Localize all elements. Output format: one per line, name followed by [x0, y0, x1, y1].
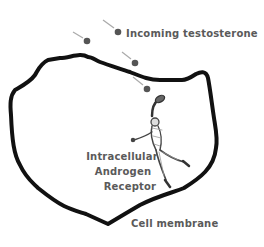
intracellular-androgen-receptor-label: Intracellular Androgen Receptor — [72, 149, 182, 194]
incoming-testosterone-label: Incoming testosterone — [126, 29, 258, 39]
receptor-label-line-1: Intracellular — [62, 149, 182, 164]
testosterone-molecule — [132, 60, 139, 67]
testosterone-molecule — [115, 29, 122, 36]
testosterone-molecule — [144, 86, 151, 93]
cell-membrane-outline — [10, 55, 216, 224]
cell-membrane-label: Cell membrane — [131, 219, 218, 229]
testosterone-molecule — [84, 38, 91, 45]
receptor-label-line-3: Receptor — [78, 179, 182, 194]
receptor-label-line-2: Androgen — [64, 164, 182, 179]
